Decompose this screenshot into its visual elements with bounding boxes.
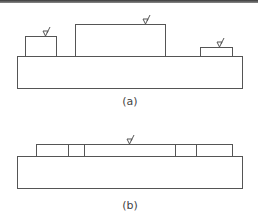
panel-a-center-block [76, 25, 166, 57]
surface-finish-icon [217, 38, 224, 47]
panel-a-base [18, 57, 243, 89]
surface-finish-icon [143, 15, 150, 24]
panel-b [18, 135, 243, 189]
surface-finish-icon [43, 27, 50, 36]
panel-b-base [18, 157, 243, 189]
panel-a-right-block [201, 48, 233, 57]
surface-finish-icon [127, 135, 134, 144]
panel-a [18, 15, 243, 89]
panel-b-top-strip [37, 145, 233, 157]
panel-b-caption: (b) [110, 199, 150, 212]
panel-a-caption: (a) [110, 95, 150, 108]
diagram-canvas [0, 0, 258, 217]
panel-a-left-block [26, 37, 57, 57]
